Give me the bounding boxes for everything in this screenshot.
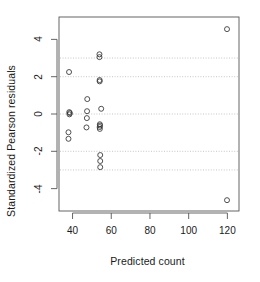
y-tick-label: -4 [32,180,46,198]
data-point [84,125,89,130]
data-point [85,109,90,114]
y-tick-label: -2 [32,142,46,160]
x-axis-title: Predicted count [55,255,240,267]
y-tick-label: 0 [32,105,46,123]
data-point [66,136,71,141]
data-point [99,106,104,111]
residual-scatter-plot: Standardized Pearson residuals Predicted… [0,0,260,282]
data-point [225,198,230,203]
y-axis-title: Standardized Pearson residuals [0,0,22,282]
x-tick-label: 60 [96,225,126,236]
x-tick-label: 40 [58,225,88,236]
data-point [85,97,90,102]
data-point [67,70,72,75]
y-tick-label: 2 [32,68,46,86]
x-tick-label: 120 [212,225,242,236]
data-point [98,159,103,164]
data-point [66,130,71,135]
data-point [98,153,103,158]
data-point [98,165,103,170]
x-tick-label: 100 [174,225,204,236]
data-point [225,27,230,32]
data-points-group [66,27,230,203]
x-tick-label: 80 [135,225,165,236]
axes-group [51,39,227,219]
data-point [84,116,89,121]
y-tick-label: 4 [32,30,46,48]
